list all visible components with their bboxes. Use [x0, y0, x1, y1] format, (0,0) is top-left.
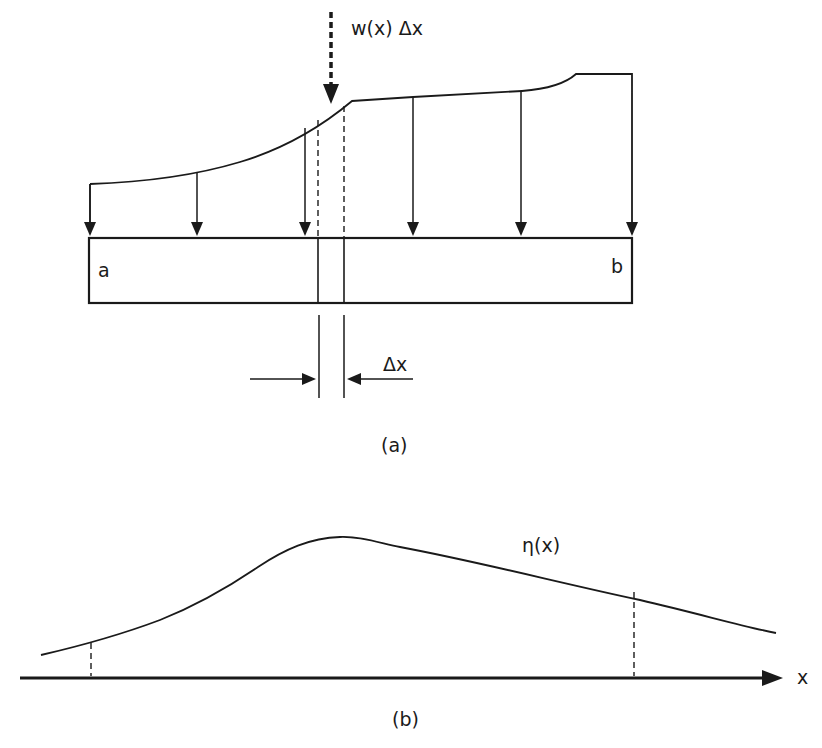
element-width-label: Δx: [383, 353, 407, 375]
x-axis-label: x: [797, 666, 808, 688]
diagram-canvas: w(x) Δx a b Δx (a) x η(x) (b): [0, 0, 822, 748]
caption-b: (b): [392, 708, 419, 730]
arrowhead-right-icon: [302, 373, 316, 385]
point-load-arrowhead-icon: [323, 84, 339, 104]
end-left-label: a: [98, 259, 110, 281]
load-distribution-curve: [90, 74, 632, 230]
eta-label: η(x): [522, 534, 560, 556]
arrowhead-icon: [407, 222, 419, 236]
arrowhead-icon: [84, 222, 96, 236]
arrowhead-left-icon: [347, 373, 361, 385]
eta-curve: [41, 537, 776, 655]
arrowhead-icon: [626, 222, 638, 236]
load-arrows: [84, 91, 638, 236]
arrowhead-icon: [515, 222, 527, 236]
figure-a: w(x) Δx a b Δx (a): [84, 12, 638, 456]
caption-a: (a): [381, 434, 407, 456]
arrowhead-icon: [299, 222, 311, 236]
arrowhead-icon: [191, 222, 203, 236]
beam: [89, 238, 632, 303]
x-axis-arrowhead-icon: [762, 670, 783, 686]
load-label: w(x) Δx: [351, 17, 423, 39]
figure-b: x η(x) (b): [20, 534, 808, 730]
end-right-label: b: [611, 255, 623, 277]
